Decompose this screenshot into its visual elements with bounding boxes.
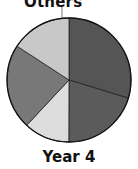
pie-chart: [0, 0, 138, 169]
others-label: Others: [24, 0, 82, 11]
chart-title: Year 4: [0, 148, 138, 166]
